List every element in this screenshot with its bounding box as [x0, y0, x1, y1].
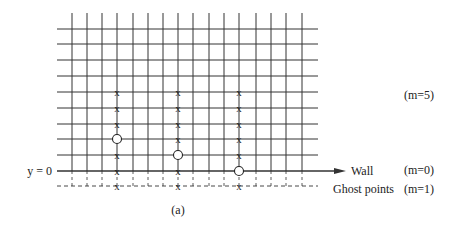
ghost-points-label: Ghost points: [333, 182, 394, 196]
cross-mark-icon: x: [236, 86, 242, 98]
grid-lines: [57, 13, 318, 186]
circle-mark-icon: [113, 135, 122, 144]
cross-mark-icon: x: [236, 180, 242, 192]
cross-mark-icon: x: [175, 118, 181, 130]
wall-label: Wall: [351, 164, 374, 178]
cross-mark-icon: x: [114, 86, 120, 98]
cross-mark-icon: x: [114, 102, 120, 114]
cross-mark-icon: x: [236, 149, 242, 161]
y-zero-label: y = 0: [27, 164, 52, 178]
cross-mark-icon: x: [175, 165, 181, 177]
cross-mark-icon: x: [114, 165, 120, 177]
figure-caption: (a): [171, 203, 184, 217]
cross-mark-icon: x: [114, 118, 120, 130]
cross-mark-icon: x: [114, 149, 120, 161]
circle-mark-icon: [174, 151, 183, 160]
circle-mark-icon: [235, 167, 244, 176]
m0-annotation: (m=0): [404, 163, 434, 177]
cross-mark-icon: x: [175, 133, 181, 145]
cross-mark-icon: x: [114, 180, 120, 192]
m1-annotation: (m=1): [404, 182, 434, 196]
wall-ghost-grid-diagram: xxxxxxxxxxxxxxxxxx y = 0 Wall Ghost poin…: [0, 0, 455, 226]
cross-mark-icon: x: [175, 86, 181, 98]
cross-mark-icon: x: [236, 133, 242, 145]
arrow-head-icon: [334, 168, 346, 174]
cross-mark-icon: x: [236, 118, 242, 130]
wall-line: [57, 168, 346, 174]
cross-mark-icon: x: [175, 180, 181, 192]
m5-annotation: (m=5): [404, 88, 434, 102]
cross-mark-icon: x: [236, 102, 242, 114]
cross-mark-icon: x: [175, 102, 181, 114]
